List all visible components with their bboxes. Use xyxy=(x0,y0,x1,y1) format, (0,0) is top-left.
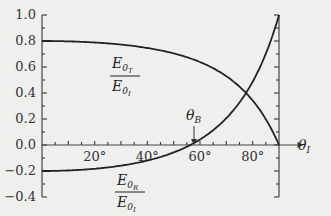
y-tick-label: 0.0 xyxy=(15,137,36,152)
svg-text:E0R: E0R xyxy=(116,172,139,192)
x-tick-label: 20° xyxy=(83,149,106,164)
svg-text:E0I: E0I xyxy=(116,194,136,214)
svg-text:E0T: E0T xyxy=(111,55,134,75)
fresnel-chart: 1.00.80.60.40.20.0−0.2−0.420°40°60°80° E… xyxy=(0,0,331,216)
x-axis-label: θI xyxy=(298,137,310,155)
transmission-label: E0T E0I xyxy=(110,55,140,98)
svg-text:θB: θB xyxy=(186,107,201,125)
y-tick-label: 0.8 xyxy=(15,33,36,48)
transmission-curve xyxy=(42,41,279,145)
curves xyxy=(42,15,279,171)
y-tick-label: 0.6 xyxy=(15,59,36,74)
y-tick-label: 1.0 xyxy=(15,7,36,22)
y-tick-label: −0.2 xyxy=(4,163,36,178)
y-tick-label: 0.2 xyxy=(15,111,36,126)
svg-text:E0I: E0I xyxy=(111,78,131,98)
reflection-label: E0R E0I xyxy=(115,172,145,214)
reflection-curve xyxy=(42,15,279,171)
x-tick-label: 80° xyxy=(241,149,264,164)
x-tick-label: 60° xyxy=(188,149,211,164)
y-tick-label: 0.4 xyxy=(15,85,36,100)
y-tick-label: −0.4 xyxy=(4,189,36,204)
